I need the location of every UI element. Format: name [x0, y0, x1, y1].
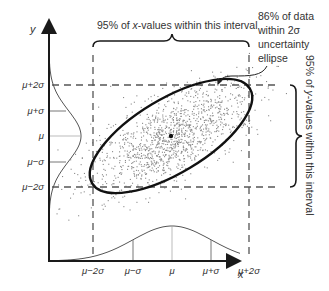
- y-tick-label: μ−σ: [27, 156, 46, 167]
- x-tick-label: μ−2σ: [81, 265, 105, 276]
- y-tick-label: μ+2σ: [21, 79, 45, 90]
- x-tick-labels: μ−2σ μ−σ μ μ+σ μ+2σ: [81, 265, 261, 276]
- x-interval-brace: [93, 34, 249, 47]
- svg-text:within 2σ: within 2σ: [257, 24, 301, 36]
- y-marginal-distribution: [49, 60, 81, 215]
- svg-text:ellipse: ellipse: [258, 52, 288, 64]
- x-interval-label: 95% of x-values within this interval: [97, 19, 258, 31]
- mean-point: [169, 134, 173, 138]
- y-tick-label: μ−2σ: [21, 181, 45, 192]
- x-tick-label: μ+σ: [202, 265, 221, 276]
- y-interval-label: 95% of y-values within this interval: [304, 55, 316, 216]
- x-marginal-distribution: [55, 226, 240, 261]
- y-axis-label: y: [29, 23, 37, 35]
- x-tick-label: μ: [168, 265, 175, 276]
- y-tick-labels: μ+2σ μ+σ μ μ−σ μ−2σ: [21, 79, 45, 192]
- y-interval-brace: [290, 85, 302, 187]
- svg-text:uncertainty: uncertainty: [258, 38, 310, 50]
- x-tick-label: μ+2σ: [237, 265, 261, 276]
- y-tick-label: μ: [38, 130, 45, 141]
- x-tick-label: μ−σ: [124, 265, 143, 276]
- y-tick-label: μ+σ: [27, 105, 46, 116]
- bivariate-normal-diagram: y x μ+2σ μ+σ μ μ−σ μ−2σ μ−2σ μ−σ μ μ+σ μ…: [0, 0, 329, 291]
- svg-text:86% of data: 86% of data: [258, 10, 314, 22]
